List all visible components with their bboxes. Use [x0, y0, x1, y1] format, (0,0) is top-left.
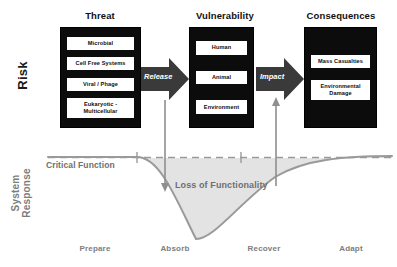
- loss-of-functionality-label: Loss of Functionality: [175, 180, 268, 190]
- phase-label-adapt: Adapt: [316, 244, 386, 253]
- critical-function-label: Critical Function: [46, 160, 115, 170]
- phase-label-prepare: Prepare: [60, 244, 130, 253]
- phase-label-absorb: Absorb: [140, 244, 210, 253]
- diagram-canvas: Risk System Response Threat Vulnerabilit…: [0, 0, 397, 267]
- phase-label-recover: Recover: [229, 244, 299, 253]
- resilience-curve-graphic: [0, 0, 397, 267]
- release-down-arrowhead: [161, 183, 169, 192]
- impact-up-arrowhead: [272, 97, 280, 106]
